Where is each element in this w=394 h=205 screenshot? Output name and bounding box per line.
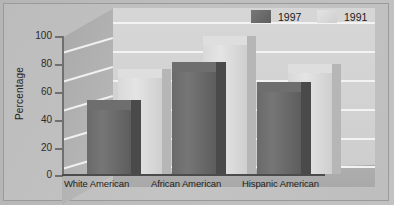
bar-side-face — [301, 82, 311, 174]
y-axis-line — [62, 36, 64, 176]
bar-1997-hispanic-american — [257, 92, 301, 174]
bar-top-face — [172, 62, 216, 72]
y-axis-title: Percentage — [14, 52, 25, 136]
y-tick-60 — [55, 92, 63, 94]
bar-top-face — [203, 36, 247, 45]
chart-plot-area: 100 80 60 40 20 0 Percentage White Ameri… — [0, 0, 394, 205]
bar-side-face — [247, 36, 256, 174]
legend-label-1997: 1997 — [278, 11, 301, 23]
chart-legend: 1997 1991 — [251, 8, 375, 30]
bar-side-face — [131, 100, 141, 174]
bar-top-face — [257, 82, 301, 92]
y-tick-label-60: 60 — [22, 87, 52, 97]
x-tick-label-african-american: African American — [151, 178, 221, 189]
x-tick-label-white-american: White American — [64, 178, 129, 189]
legend-item-1997: 1997 — [251, 10, 301, 23]
legend-item-1991: 1991 — [317, 10, 367, 23]
x-axis-line — [62, 174, 325, 176]
y-tick-label-100: 100 — [22, 31, 52, 41]
bar-front-face — [87, 110, 131, 174]
legend-label-1991: 1991 — [344, 11, 367, 23]
y-tick-100 — [55, 36, 63, 38]
y-tick-80 — [55, 64, 63, 66]
light-swatch-icon — [317, 10, 337, 23]
bar-side-face — [216, 62, 226, 174]
x-tick-labels: White American African American Hispanic… — [62, 178, 382, 196]
y-tick-label-0: 0 — [22, 170, 52, 180]
y-tick-label-20: 20 — [22, 143, 52, 153]
bar-1997-african-american — [172, 72, 216, 174]
chart-root: 100 80 60 40 20 0 Percentage White Ameri… — [0, 0, 394, 205]
bar-front-face — [257, 92, 301, 174]
bar-top-face — [288, 64, 332, 73]
bar-top-face — [87, 100, 131, 110]
dark-swatch-icon — [251, 10, 271, 23]
bar-front-face — [172, 72, 216, 174]
bar-side-face — [332, 64, 341, 174]
y-tick-label-40: 40 — [22, 115, 52, 125]
y-tick-label-80: 80 — [22, 59, 52, 69]
y-tick-20 — [55, 148, 63, 150]
bar-1997-white-american — [87, 110, 131, 174]
bar-top-face — [118, 69, 162, 78]
x-tick-label-hispanic-american: Hispanic American — [242, 178, 319, 189]
bar-side-face — [162, 69, 171, 174]
y-tick-40 — [55, 120, 63, 122]
